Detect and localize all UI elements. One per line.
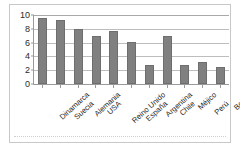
bar-slot — [158, 15, 176, 84]
bar — [127, 42, 136, 84]
bar — [216, 67, 225, 84]
x-axis-labels: DinamarcaSueciaAlemaniaUSAReino UnidoEsp… — [33, 89, 229, 139]
bar — [92, 36, 101, 84]
bar-slot — [105, 15, 123, 84]
y-axis-tick-label: 10 — [20, 11, 30, 20]
bar-series — [34, 15, 229, 84]
bar-slot — [194, 15, 212, 84]
bar-slot — [123, 15, 141, 84]
bar — [109, 31, 118, 84]
bar — [163, 36, 172, 84]
y-axis-tick-label: 2 — [25, 66, 30, 75]
bar — [145, 65, 154, 84]
y-axis-tick-label: 6 — [25, 38, 30, 47]
bar-slot — [176, 15, 194, 84]
x-axis-category-label: Perú — [213, 100, 230, 116]
bar-slot — [52, 15, 70, 84]
bar-slot — [69, 15, 87, 84]
y-axis-tick-label: 8 — [25, 24, 30, 33]
bar-slot — [211, 15, 229, 84]
x-axis-category-label: Bolivia — [233, 91, 240, 112]
bar — [198, 62, 207, 84]
y-axis-tick-label: 0 — [25, 80, 30, 89]
plot-area: 0246810 — [33, 15, 229, 85]
bar-slot — [140, 15, 158, 84]
bottom-rule — [14, 136, 226, 137]
y-axis-tick-label: 4 — [25, 52, 30, 61]
bar — [38, 18, 47, 84]
bar-chart-figure: 0246810 DinamarcaSueciaAlemaniaUSAReino … — [0, 0, 240, 151]
bar — [180, 65, 189, 84]
bar-slot — [34, 15, 52, 84]
bar-slot — [87, 15, 105, 84]
bar — [74, 29, 83, 84]
bar — [56, 20, 65, 84]
